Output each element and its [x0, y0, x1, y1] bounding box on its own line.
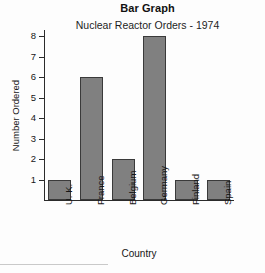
y-axis-label: Number Ordered: [10, 76, 21, 156]
y-axis-tick-label: 6: [22, 72, 36, 81]
x-axis-tick-label: France: [96, 135, 106, 205]
y-axis-tick-label: 3: [22, 134, 36, 143]
x-axis-tick-label: Germany: [159, 135, 169, 205]
y-axis-tick-label: 7: [22, 52, 36, 61]
x-axis-tick-label: U. K.: [64, 135, 74, 205]
y-axis-tick: [39, 98, 45, 99]
page-divider-rule: [0, 264, 108, 265]
y-axis-tick-label: 1: [22, 175, 36, 184]
y-axis-tick: [39, 139, 45, 140]
y-axis-tick: [39, 118, 45, 119]
y-axis-tick-label: 4: [22, 113, 36, 122]
y-axis-tick-label: 5: [22, 93, 36, 102]
y-axis-tick: [39, 180, 45, 181]
x-axis-label: Country: [44, 248, 234, 259]
y-axis-tick-label: 2: [22, 154, 36, 163]
x-axis-tick-label: Spain: [223, 135, 233, 205]
bar-chart-figure: Bar Graph Nuclear Reactor Orders - 1974 …: [0, 0, 265, 273]
chart-title: Bar Graph: [40, 2, 255, 14]
x-axis-tick-label: Belgium: [128, 135, 138, 205]
y-axis-tick-label: 8: [22, 31, 36, 40]
y-axis-tick: [39, 57, 45, 58]
chart-subtitle: Nuclear Reactor Orders - 1974: [40, 19, 255, 31]
y-axis-tick: [39, 36, 45, 37]
y-axis-tick: [39, 77, 45, 78]
y-axis-tick: [39, 159, 45, 160]
x-axis-tick-label: Finland: [191, 135, 201, 205]
